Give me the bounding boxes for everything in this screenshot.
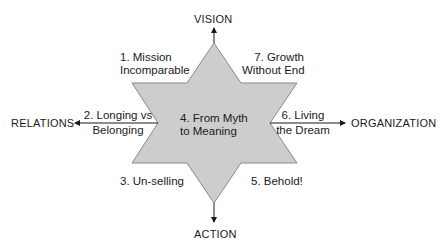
point-1-line2: Incomparable xyxy=(120,64,190,77)
point-1-line1: 1. Mission xyxy=(120,51,190,64)
center-label: 4. From Myth to Meaning xyxy=(180,112,248,138)
point-7-line2: Without End xyxy=(242,64,304,77)
point-2-line1: 2. Longing vs xyxy=(80,109,156,122)
point-label-5: 5. Behold! xyxy=(251,175,303,188)
center-label-line2: to Meaning xyxy=(180,125,248,138)
point-label-7: 7. Growth Without End xyxy=(242,51,304,77)
center-label-line1: 4. From Myth xyxy=(180,112,248,125)
point-6-line1: 6. Living xyxy=(275,109,331,122)
point-label-3: 3. Un-selling xyxy=(120,175,184,188)
axis-label-action: ACTION xyxy=(194,228,237,241)
axis-label-relations: RELATIONS xyxy=(11,117,74,130)
point-label-6: 6. Living the Dream xyxy=(275,109,331,137)
point-label-2: 2. Longing vs Belonging xyxy=(80,109,156,137)
point-label-1: 1. Mission Incomparable xyxy=(120,51,190,77)
point-7-line1: 7. Growth xyxy=(242,51,304,64)
point-6-line2: the Dream xyxy=(275,124,331,137)
point-2-line2: Belonging xyxy=(80,124,156,137)
axis-label-vision: VISION xyxy=(194,13,233,26)
axis-label-organization: ORGANIZATION xyxy=(351,117,436,130)
